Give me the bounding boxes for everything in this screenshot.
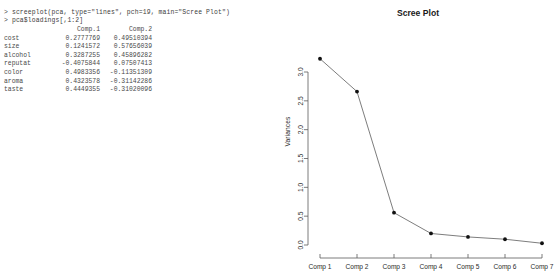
variance-line [320,59,542,244]
x-tick-label: Comp 7 [530,263,553,271]
x-tick-label: Comp 5 [456,263,479,271]
data-point [392,211,396,215]
cell-alcohol-comp1: 0.3287255 [48,52,100,61]
data-point [503,237,507,241]
cell-color-comp2: -0.11351309 [100,69,152,78]
cell-color-comp1: 0.4983356 [48,69,100,78]
data-point [540,241,544,245]
row-label-size: size [4,43,48,52]
cell-reputat-comp1: -0.4075844 [48,60,100,69]
y-tick-label: 0.0 [297,240,304,249]
x-tick-label: Comp 2 [345,263,368,271]
table-row: color 0.4983356 -0.11351309 [4,69,152,78]
y-tick-label: 0.5 [297,211,304,220]
y-tick-label: 1.5 [297,154,304,163]
variance-series [318,57,544,245]
cell-reputat-comp2: 0.07507413 [100,60,152,69]
column-header-comp2: Comp.2 [100,26,152,35]
pca-loadings-table: Comp.1 Comp.2 cost 0.2777769 0.49510394 … [4,26,152,95]
x-tick-label: Comp 4 [419,263,442,271]
row-label-color: color [4,69,48,78]
table-row: reputat -0.4075844 0.07507413 [4,60,152,69]
data-point [355,90,359,94]
cell-alcohol-comp2: 0.45896282 [100,52,152,61]
y-tick-label: 2.0 [297,125,304,134]
cell-taste-comp1: 0.4449355 [48,86,100,95]
console-command-loadings: > pca$loadings[,1:2] [4,17,83,25]
row-label-cost: cost [4,35,48,44]
cell-aroma-comp2: -0.31142286 [100,78,152,87]
row-label-reputat: reputat [4,60,48,69]
x-tick-label: Comp 6 [493,263,516,271]
table-row: alcohol 0.3287255 0.45896282 [4,52,152,61]
data-point [318,57,322,61]
column-header-comp1: Comp.1 [48,26,100,35]
cell-size-comp1: 0.1241572 [48,43,100,52]
data-point [466,235,470,239]
table-row: taste 0.4449355 -0.31020096 [4,86,152,95]
x-tick-label: Comp 1 [308,263,331,271]
table-header-row: Comp.1 Comp.2 [4,26,152,35]
cell-taste-comp2: -0.31020096 [100,86,152,95]
y-tick-label: 1.0 [297,182,304,191]
y-axis: 0.00.51.01.52.02.53.0 [297,67,308,249]
x-tick-label: Comp 3 [382,263,405,271]
cell-cost-comp1: 0.2777769 [48,35,100,44]
row-label-taste: taste [4,86,48,95]
x-axis: Comp 1Comp 2Comp 3Comp 4Comp 5Comp 6Comp… [308,254,553,271]
scree-plot-pane: Scree Plot Variances 0.00.51.01.52.02.53… [278,0,558,278]
cell-cost-comp2: 0.49510394 [100,35,152,44]
table-row: size 0.1241572 0.57656039 [4,43,152,52]
cell-size-comp2: 0.57656039 [100,43,152,52]
table-row: aroma 0.4323578 -0.31142286 [4,78,152,87]
data-point [429,232,433,236]
console-command-screeplot: > screeplot(pca, type="lines", pch=19, m… [4,9,230,17]
y-tick-label: 2.5 [297,96,304,105]
row-label-aroma: aroma [4,78,48,87]
table-row: cost 0.2777769 0.49510394 [4,35,152,44]
y-tick-label: 3.0 [297,67,304,76]
column-header-rowname [4,26,48,35]
r-console-pane: > screeplot(pca, type="lines", pch=19, m… [0,0,278,278]
cell-aroma-comp1: 0.4323578 [48,78,100,87]
row-label-alcohol: alcohol [4,52,48,61]
scree-plot-svg: 0.00.51.01.52.02.53.0 Comp 1Comp 2Comp 3… [278,0,558,278]
